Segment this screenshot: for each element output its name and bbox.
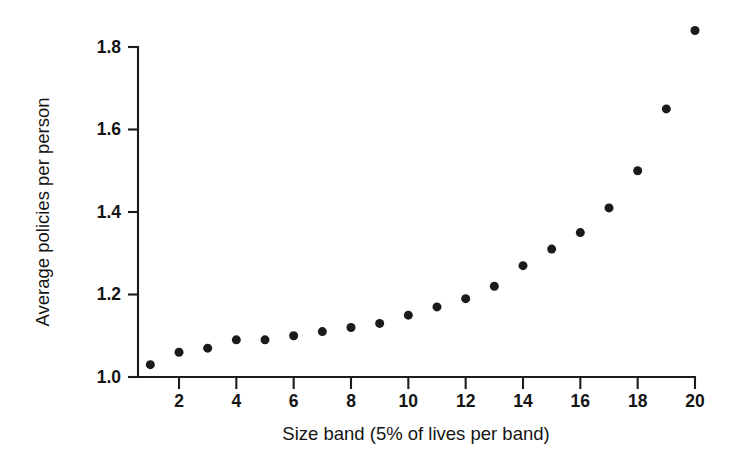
- data-point: [691, 26, 700, 35]
- x-axis-tick-label: 4: [231, 391, 241, 411]
- data-point: [576, 228, 585, 237]
- data-point: [232, 335, 241, 344]
- plot-canvas: 1.01.21.41.61.8 2468101214161820 Size ba…: [0, 0, 744, 465]
- scatter-plot-figure: 1.01.21.41.61.8 2468101214161820 Size ba…: [0, 0, 744, 465]
- data-point: [404, 311, 413, 320]
- x-axis-tick-label: 6: [289, 391, 299, 411]
- data-point: [547, 245, 556, 254]
- x-axis-tick-label: 14: [513, 391, 533, 411]
- data-point: [203, 344, 212, 353]
- data-point: [662, 104, 671, 113]
- y-axis-tick-label: 1.4: [97, 202, 122, 222]
- x-axis-title: Size band (5% of lives per band): [282, 423, 549, 444]
- y-axis-tick-group: 1.01.21.41.61.8: [97, 37, 138, 387]
- y-axis-tick-label: 1.6: [97, 119, 122, 139]
- data-point: [375, 319, 384, 328]
- data-point: [347, 323, 356, 332]
- x-axis-tick-label: 10: [399, 391, 419, 411]
- data-point-group: [146, 26, 700, 369]
- y-axis-tick-label: 1.2: [97, 284, 122, 304]
- x-axis-tick-group: 2468101214161820: [174, 377, 705, 411]
- y-axis-tick-label: 1.0: [97, 367, 122, 387]
- x-axis-tick-label: 20: [685, 391, 705, 411]
- data-point: [605, 203, 614, 212]
- data-point: [289, 331, 298, 340]
- data-point: [519, 261, 528, 270]
- y-axis-tick-label: 1.8: [97, 37, 122, 57]
- x-axis-tick-label: 2: [174, 391, 184, 411]
- data-point: [433, 302, 442, 311]
- x-axis-tick-label: 18: [628, 391, 648, 411]
- x-axis-tick-label: 16: [571, 391, 591, 411]
- data-point: [461, 294, 470, 303]
- y-axis-title: Average policies per person: [32, 98, 53, 327]
- data-point: [633, 166, 642, 175]
- data-point: [318, 327, 327, 336]
- data-point: [490, 282, 499, 291]
- x-axis-tick-label: 8: [346, 391, 356, 411]
- data-point: [175, 348, 184, 357]
- x-axis-tick-label: 12: [456, 391, 476, 411]
- data-point: [261, 335, 270, 344]
- data-point: [146, 360, 155, 369]
